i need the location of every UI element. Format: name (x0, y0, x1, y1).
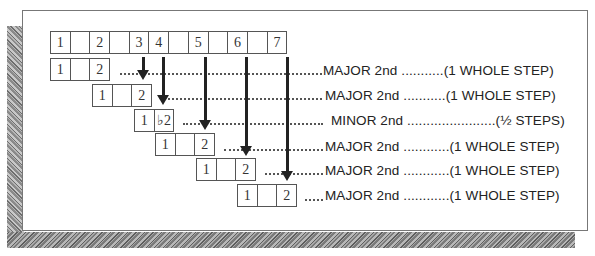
dotted-leader (265, 173, 323, 175)
interval-cell: 1 (134, 109, 155, 132)
interval-cell (70, 58, 91, 81)
scale-cell: 2 (89, 31, 110, 54)
interval-row-4: 1 2 (155, 133, 215, 156)
interval-cell: 1 (50, 58, 71, 81)
scale-cell: 3 (129, 31, 150, 54)
arrow-down-icon (286, 57, 289, 173)
interval-cell (175, 133, 196, 156)
interval-cell: 1 (92, 84, 113, 107)
scale-cell (109, 31, 130, 54)
interval-label: MAJOR 2nd ............(1 WHOLE STEP) (325, 139, 560, 154)
arrow-down-icon (162, 57, 165, 97)
scale-cell: 1 (50, 31, 71, 54)
interval-cell: 2 (131, 84, 152, 107)
interval-cell (257, 184, 278, 207)
interval-row-1: 1 2 (50, 58, 110, 81)
scale-cell: 6 (227, 31, 248, 54)
dotted-leader (305, 199, 323, 201)
interval-label: MINOR 2nd .......................(½ STEP… (331, 113, 565, 128)
interval-cell: 2 (235, 158, 256, 181)
interval-cell: 1 (237, 184, 258, 207)
interval-cell (112, 84, 133, 107)
scale-cell (168, 31, 189, 54)
interval-label: MAJOR 2nd ...........(1 WHOLE STEP) (323, 63, 554, 78)
scale-cell: 5 (188, 31, 209, 54)
arrow-down-icon (245, 57, 248, 148)
interval-row-6: 1 2 (237, 184, 297, 207)
dotted-leader (224, 149, 323, 151)
interval-cell: ♭2 (154, 109, 175, 132)
interval-row-2: 1 2 (92, 84, 152, 107)
interval-cell: 1 (155, 133, 176, 156)
scale-cell: 7 (267, 31, 288, 54)
scale-cell (208, 31, 229, 54)
interval-cell: 2 (194, 133, 215, 156)
arrow-down-icon (204, 57, 207, 122)
interval-label: MAJOR 2nd ............(1 WHOLE STEP) (325, 188, 560, 203)
interval-label: MAJOR 2nd ............(1 WHOLE STEP) (325, 163, 560, 178)
interval-cell: 1 (196, 158, 217, 181)
interval-row-3: 1 ♭2 (134, 109, 174, 132)
scale-cell: 4 (148, 31, 169, 54)
interval-cell: 2 (276, 184, 297, 207)
arrow-down-icon (142, 57, 145, 72)
interval-row-5: 1 2 (196, 158, 256, 181)
interval-label: MAJOR 2nd ...........(1 WHOLE STEP) (325, 88, 556, 103)
scale-cell (70, 31, 91, 54)
dotted-leader (120, 73, 322, 75)
interval-cell: 2 (89, 58, 110, 81)
frame-shadow-bottom (7, 232, 575, 248)
interval-cell (216, 158, 237, 181)
scale-row: 1 2 3 4 5 6 7 (50, 31, 287, 54)
scale-cell (247, 31, 268, 54)
